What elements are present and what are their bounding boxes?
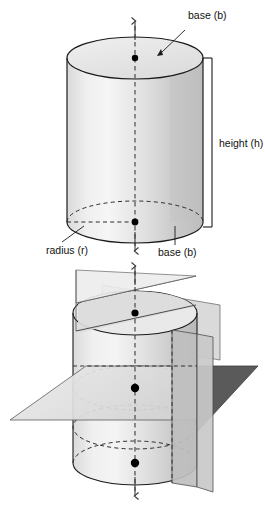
vertical-plane-front-panel	[172, 330, 197, 487]
upper-cylinder-panel: base (b) height (h) radius (r) base (b)	[46, 9, 263, 258]
cylinder-shading-band	[170, 58, 203, 222]
label-base-top: base (b)	[188, 9, 227, 21]
label-height: height (h)	[219, 137, 263, 149]
height-bracket	[203, 58, 212, 227]
lower-cylinder-panel	[10, 266, 258, 496]
horizontal-plane-left-wing	[10, 366, 197, 420]
top-base-center-point	[131, 309, 138, 316]
vertical-plane-front-panel-right	[197, 334, 213, 492]
label-base-bottom: base (b)	[158, 246, 197, 258]
bottom-base-center-point	[132, 219, 139, 226]
cylinder-diagram-figure: base (b) height (h) radius (r) base (b)	[0, 0, 265, 507]
diagram-canvas: base (b) height (h) radius (r) base (b)	[0, 0, 265, 507]
bottom-base-center-point	[131, 459, 139, 467]
label-radius: radius (r)	[46, 244, 88, 256]
top-base-center-point	[132, 55, 138, 61]
mid-cross-section-center-point	[131, 384, 139, 392]
